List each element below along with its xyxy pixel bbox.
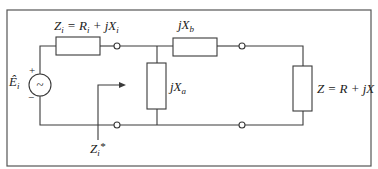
shunt-reactance-label: jXa xyxy=(168,79,187,96)
circuit-diagram: ~ + − Êi Zi = Ri + jXi jXb jXa Z = R + j… xyxy=(0,0,378,169)
shunt-reactance-a xyxy=(147,63,166,109)
conjugate-impedance-label: Zi* xyxy=(90,140,106,158)
terminal-bottom-left xyxy=(114,122,120,128)
wire-source-top xyxy=(40,46,56,74)
minus-sign: − xyxy=(28,91,34,103)
series-reactance-b xyxy=(173,38,217,56)
wire-top-right xyxy=(245,46,303,66)
impedance-arrow xyxy=(98,85,120,140)
load-impedance xyxy=(293,66,312,111)
ac-tilde-icon: ~ xyxy=(36,77,43,92)
source-emf-label: Êi xyxy=(8,74,20,91)
wire-source-bottom xyxy=(40,96,114,125)
arrowhead-icon xyxy=(119,82,126,88)
source-impedance-label: Zi = Ri + jXi xyxy=(54,18,119,35)
series-reactance-label: jXb xyxy=(176,17,195,34)
source-impedance-resistor xyxy=(56,37,100,55)
terminal-top-right xyxy=(239,43,245,49)
plus-sign: + xyxy=(29,64,35,76)
wire-load-bottom xyxy=(245,111,303,125)
terminal-top-left xyxy=(114,43,120,49)
terminal-bottom-right xyxy=(239,122,245,128)
load-impedance-label: Z = R + jX xyxy=(317,81,375,96)
